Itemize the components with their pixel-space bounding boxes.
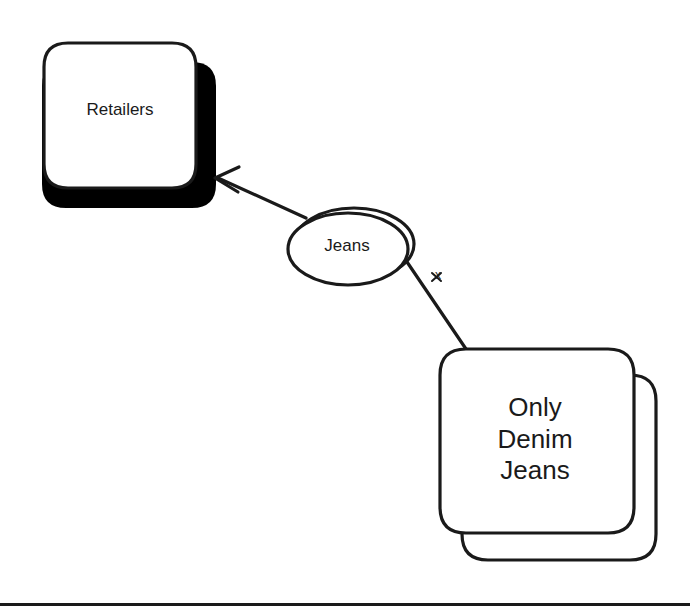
edge-label-x: x [430, 268, 446, 282]
footer-rule [0, 603, 690, 606]
diagram-canvas: Retailers Jeans Only Denim Jeans x [0, 0, 690, 613]
retailers-node[interactable] [42, 43, 216, 208]
diagram-vector-layer [0, 0, 690, 613]
edge-jeans-to-retailers[interactable] [215, 167, 306, 218]
edge-line [218, 178, 306, 218]
only-denim-jeans-node-label: Only Denim Jeans [440, 392, 630, 487]
jeans-node-label: Jeans [287, 236, 407, 257]
retailers-node-label: Retailers [44, 100, 196, 121]
arrowhead-icon [215, 167, 239, 192]
